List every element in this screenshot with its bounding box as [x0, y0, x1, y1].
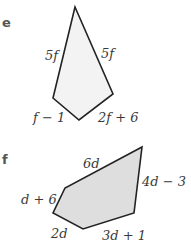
- part-f-label: f: [2, 153, 8, 166]
- side-label-e-upper-left: 5f: [45, 49, 58, 62]
- side-label-e-lower-left: f − 1: [33, 111, 65, 124]
- side-label-f-bottom-left: 2d: [51, 227, 68, 240]
- side-label-e-upper-right: 5f: [101, 47, 114, 60]
- side-label-f-bottom-right: 3d + 1: [102, 229, 146, 242]
- side-label-f-right: 4d − 3: [142, 175, 186, 188]
- side-label-e-lower-right: 2f + 6: [98, 111, 139, 124]
- diagram-canvas: [0, 0, 191, 249]
- quadrilateral-e: [53, 7, 113, 120]
- side-label-f-top: 6d: [83, 157, 100, 170]
- side-label-f-left: d + 6: [21, 193, 57, 206]
